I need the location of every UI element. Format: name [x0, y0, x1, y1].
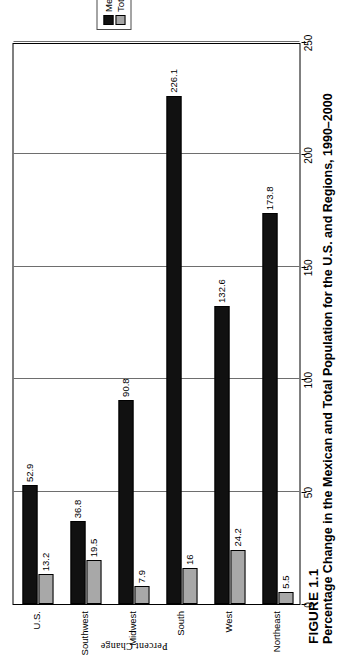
bar-value-label: 5.5: [280, 575, 291, 588]
category-label: Southwest: [79, 611, 90, 655]
bar-total-pop: [230, 550, 245, 604]
bar-value-label: 52.9: [24, 464, 35, 483]
bar-mexican-pop: [70, 521, 85, 604]
category-label: Midwest: [127, 611, 138, 646]
bar-total-pop: [182, 568, 197, 604]
legend-label: Total Pop.: [114, 0, 125, 12]
category-label: U.S.: [31, 611, 42, 629]
gridline: [13, 153, 299, 154]
bar-mexican-pop: [262, 213, 277, 604]
legend-item: Total Pop.: [114, 0, 125, 25]
bar-total-pop: [278, 592, 293, 604]
bar-value-label: 19.5: [88, 539, 99, 558]
bar-total-pop: [86, 560, 101, 604]
gridline: [13, 491, 299, 492]
figure-title: Percentage Change in the Mexican and Tot…: [320, 4, 335, 644]
category-axis-labels: U.S.SouthwestMidwestSouthWestNortheast: [12, 607, 300, 652]
legend-label: Mexican Pop.: [102, 0, 113, 12]
bar-value-label: 173.8: [264, 187, 275, 211]
bar-value-label: 16: [184, 554, 195, 565]
gridline: [13, 378, 299, 379]
category-label: Northeast: [271, 611, 282, 652]
bar-total-pop: [134, 586, 149, 604]
bar-value-label: 7.9: [136, 570, 147, 583]
bar-value-label: 90.8: [120, 378, 131, 397]
legend-swatch: [115, 15, 125, 25]
gridline: [13, 41, 299, 42]
bar-mexican-pop: [166, 96, 181, 604]
bar-value-label: 13.2: [40, 553, 51, 572]
bar-mexican-pop: [118, 400, 133, 604]
bar-value-label: 132.6: [216, 279, 227, 303]
category-label: West: [223, 611, 234, 632]
legend-swatch: [103, 15, 113, 25]
bar-value-label: 24.2: [232, 528, 243, 547]
plot-area: 52.913.236.819.590.87.9226.116132.624.21…: [12, 43, 300, 605]
bar-total-pop: [38, 574, 53, 604]
figure-caption: FIGURE 1.1 Percentage Change in the Mexi…: [305, 4, 335, 644]
bar-value-label: 226.1: [168, 69, 179, 93]
bar-value-label: 36.8: [72, 500, 83, 519]
legend: Mexican Pop.Total Pop.: [96, 0, 131, 30]
gridline: [13, 266, 299, 267]
bar-mexican-pop: [22, 485, 37, 604]
figure-number: FIGURE 1.1: [305, 4, 320, 644]
bar-mexican-pop: [214, 306, 229, 604]
legend-item: Mexican Pop.: [102, 0, 113, 25]
category-label: South: [175, 611, 186, 636]
